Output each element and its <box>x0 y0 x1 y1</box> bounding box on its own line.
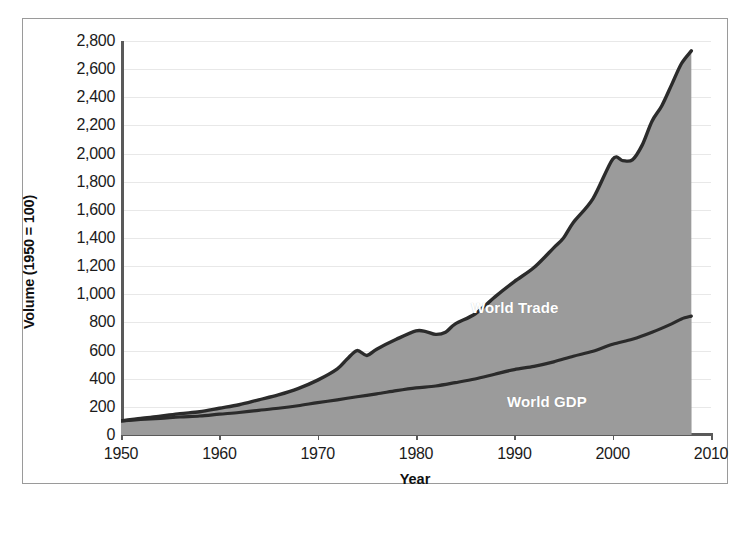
y-tick-label: 2,800 <box>76 33 115 49</box>
y-tick-label: 2,200 <box>76 117 115 133</box>
y-tick-label: 2,600 <box>76 61 115 77</box>
y-tick-label: 1,400 <box>76 230 115 246</box>
x-tick-label: 2000 <box>595 445 629 463</box>
y-tick-label: 1,000 <box>76 286 115 302</box>
y-tick-label: 800 <box>89 314 115 330</box>
x-tick-label: 2010 <box>694 445 728 463</box>
x-tick-label: 1970 <box>300 445 334 463</box>
plot-area: 02004006008001,0001,2001,4001,6001,8002,… <box>119 41 711 451</box>
x-tick-mark <box>711 433 713 440</box>
x-tick-label: 1980 <box>399 445 433 463</box>
y-tick-label: 600 <box>89 343 115 359</box>
x-tick-label: 1950 <box>104 445 138 463</box>
y-tick-label: 1,200 <box>76 258 115 274</box>
y-tick-label: 200 <box>89 399 115 415</box>
x-tick-label: 1960 <box>202 445 236 463</box>
y-axis-tick-labels: 02004006008001,0001,2001,4001,6001,8002,… <box>49 41 115 433</box>
y-tick-label: 1,800 <box>76 174 115 190</box>
y-axis-title: Volume (1950 = 100) <box>21 0 45 114</box>
y-tick-label: 0 <box>106 427 115 443</box>
chart-plot-svg <box>121 41 711 435</box>
y-tick-label: 2,400 <box>76 89 115 105</box>
x-tick-label: 1990 <box>497 445 531 463</box>
series-label-world-gdp: World GDP <box>507 393 587 410</box>
y-tick-label: 2,000 <box>76 146 115 162</box>
y-tick-label: 1,600 <box>76 202 115 218</box>
x-axis-title: Year <box>119 471 711 487</box>
series-label-world-trade: World Trade <box>471 299 559 316</box>
y-tick-label: 400 <box>89 371 115 387</box>
chart-figure: Volume (1950 = 100) 02004006008001,0001,… <box>22 18 728 484</box>
